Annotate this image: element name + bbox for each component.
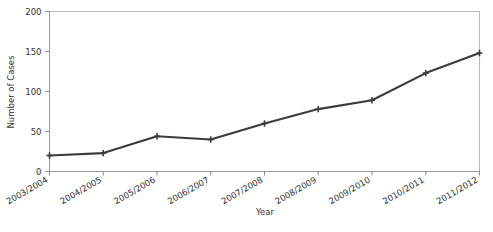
data-point-marker bbox=[262, 120, 268, 126]
x-tick-label: 2010/2011 bbox=[381, 175, 426, 207]
y-axis-title: Number of Cases bbox=[6, 55, 16, 129]
line-chart: 050100150200 2003/20042004/20052005/2006… bbox=[0, 0, 493, 232]
x-tick-label: 2005/2006 bbox=[112, 175, 157, 207]
data-point-marker bbox=[423, 70, 429, 76]
x-tick-label: 2003/2004 bbox=[5, 175, 50, 207]
data-point-marker bbox=[477, 50, 483, 56]
data-point-marker bbox=[369, 97, 375, 103]
x-tick-label: 2008/2009 bbox=[273, 175, 318, 207]
y-tick-label: 100 bbox=[25, 87, 41, 97]
y-tick-label: 0 bbox=[36, 167, 41, 177]
x-axis-tick-labels: 2003/20042004/20052005/20062006/20072007… bbox=[5, 175, 480, 207]
y-axis-ticks bbox=[46, 12, 50, 172]
x-tick-label: 2004/2005 bbox=[58, 175, 103, 207]
y-tick-label: 50 bbox=[31, 127, 42, 137]
data-point-marker bbox=[315, 106, 321, 112]
chart-canvas: 050100150200 2003/20042004/20052005/2006… bbox=[0, 0, 493, 232]
x-tick-label: 2007/2008 bbox=[220, 175, 265, 207]
data-point-marker bbox=[154, 133, 160, 139]
data-point-marker bbox=[47, 152, 53, 158]
plot-frame bbox=[49, 12, 480, 173]
x-tick-label: 2009/2010 bbox=[327, 175, 372, 207]
x-tick-label: 2006/2007 bbox=[166, 175, 211, 207]
data-point-marker bbox=[208, 136, 214, 142]
x-tick-label: 2011/2012 bbox=[435, 175, 480, 207]
data-series-line bbox=[50, 53, 480, 155]
y-tick-label: 150 bbox=[25, 47, 41, 57]
data-point-markers bbox=[47, 50, 483, 159]
x-axis-ticks bbox=[50, 172, 480, 176]
y-tick-label: 200 bbox=[25, 7, 41, 17]
x-axis-title: Year bbox=[255, 207, 275, 217]
data-point-marker bbox=[100, 150, 106, 156]
y-axis-tick-labels: 050100150200 bbox=[25, 7, 41, 177]
